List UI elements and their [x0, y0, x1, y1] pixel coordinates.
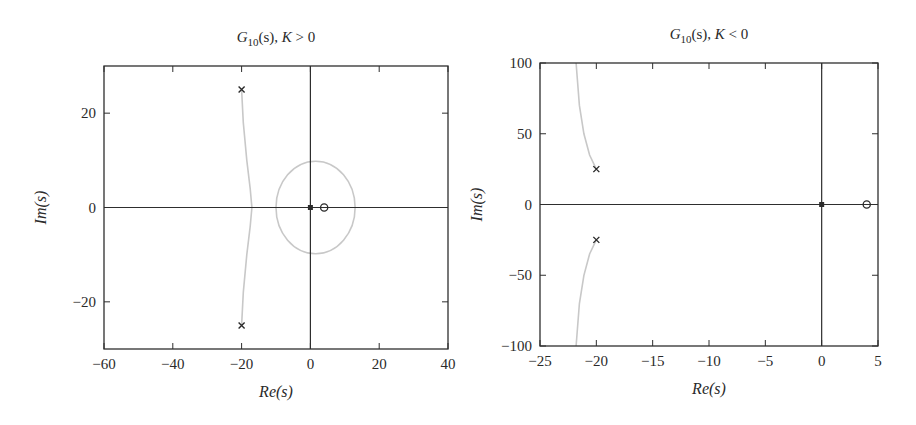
x-tick-label: −10 [697, 353, 720, 369]
pole-marker [593, 166, 599, 172]
x-tick-label: −40 [161, 356, 184, 372]
y-tick-label: 0 [89, 200, 97, 216]
pole-marker [593, 237, 599, 243]
x-tick-label: −15 [641, 353, 664, 369]
y-tick-label: −100 [501, 338, 532, 354]
x-tick-label: 20 [372, 356, 387, 372]
title-cond: < 0 [725, 26, 748, 42]
y-tick-label: 0 [525, 197, 533, 213]
x-tick-label: −5 [757, 353, 773, 369]
y-tick-label: −20 [73, 294, 96, 310]
y-axis-label: Im(s) [468, 188, 486, 223]
pole-marker [819, 202, 824, 207]
x-tick-label: 5 [874, 353, 882, 369]
y-tick-label: 50 [517, 126, 532, 142]
y-tick-label: 100 [510, 55, 533, 71]
y-tick-label: 20 [81, 105, 96, 121]
locus-branch [576, 63, 596, 169]
title-g: G [237, 29, 248, 45]
x-axis-label: Re(s) [258, 383, 293, 401]
x-tick-label: −60 [92, 356, 115, 372]
title-g: G [670, 26, 681, 42]
chart-title: G10(s), K > 0 [237, 29, 316, 48]
y-axis-label: Im(s) [32, 191, 50, 226]
x-tick-label: 0 [307, 356, 315, 372]
title-cond: > 0 [292, 29, 315, 45]
title-sub: 10 [248, 36, 260, 48]
x-tick-label: −25 [528, 353, 551, 369]
title-rest: (s), [692, 26, 715, 43]
chart-1: −60−40−2002040−20020G10(s), K > 0Re(s)Im… [32, 29, 456, 401]
pole-marker [308, 205, 313, 210]
y-tick-label: −50 [509, 267, 532, 283]
root-locus-figure: −60−40−2002040−20020G10(s), K > 0Re(s)Im… [0, 0, 916, 425]
x-tick-label: 0 [818, 353, 826, 369]
x-tick-label: −20 [230, 356, 253, 372]
locus-branch [576, 240, 596, 346]
chart-2: −25−20−15−10−505−100−50050100G10(s), K <… [468, 26, 882, 398]
chart-title: G10(s), K < 0 [670, 26, 749, 45]
locus-branch [242, 208, 252, 326]
title-rest: (s), [259, 29, 282, 46]
x-tick-label: −20 [585, 353, 608, 369]
title-sub: 10 [681, 33, 693, 45]
x-tick-label: 40 [441, 356, 456, 372]
locus-branch [242, 90, 252, 208]
x-axis-label: Re(s) [691, 380, 726, 398]
